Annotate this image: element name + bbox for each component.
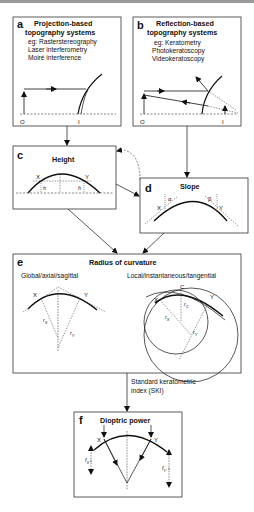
ski-label-line-2: index (SKI) [131,387,164,395]
panel-e-left-point-y: Y [84,292,88,298]
panel-a-example-3: Moiré interference [28,54,81,61]
panel-e-letter: e [17,256,23,268]
panel-b-example-2: Photokeratoscopy [152,47,205,55]
panel-b-title-2: topography systems [147,28,217,37]
panel-a-example-2: Laser interferometry [28,46,88,54]
panel-d-point-x: X [157,205,161,211]
panel-b-example-3: Videokeratoscopy [152,55,205,63]
panel-c: c Height X Y h h [13,146,116,209]
panel-e: e Radius of curvature Global/axial/sagit… [13,254,241,382]
panel-f-letter: f [79,414,83,426]
panel-c-letter: c [17,149,23,161]
panel-a-example-1: eg: Rasterstereography [28,38,98,46]
ski-label-line-1: Standard keratometric [131,378,197,385]
panel-d-point-y: Y [219,205,223,211]
panel-f-point-x: X [97,437,101,443]
panel-e-left-point-x: X [33,292,37,298]
panel-c-title: Height [52,155,75,164]
panel-c-h-left: h [43,185,46,191]
panel-b-example-1: eg: Keratometry [154,39,202,47]
panel-b-title-1: Reflection-based [156,19,214,28]
panel-f-point-y: Y [154,437,158,443]
arrow-c-to-d [116,184,139,196]
panel-e-right-point-y: Y [210,294,214,300]
panel-d: d Slope X α β Y [140,178,248,233]
panel-c-h-right: h [78,185,81,191]
panel-a-title-2: topography systems [25,28,95,37]
panel-d-title: Slope [180,182,200,191]
panel-d-letter: d [145,182,152,194]
arrow-c-to-e [68,209,117,253]
panel-f-title: Dioptric power [100,416,151,425]
panel-a-letter: a [17,18,24,30]
panel-b-letter: b [137,19,144,31]
panel-b: b Reflection-based topography systems eg… [133,17,241,126]
panel-d-alpha: α [168,196,172,202]
panel-d-beta: β [208,196,212,202]
panel-e-left-subtitle: Global/axial/sagittal [21,272,79,280]
panel-a: a Projection-based topography systems eg… [13,17,121,126]
panel-e-right-subtitle: Local/instantaneous/tangential [127,272,217,280]
panel-a-title-1: Projection-based [34,19,92,28]
panel-e-right-point-x: X [154,297,158,303]
panel-e-right-point-c: C [180,284,185,290]
panel-c-point-x: X [36,174,40,180]
curvature-diagram: a Projection-based topography systems eg… [0,0,254,512]
arrow-d-to-c [124,150,140,180]
panel-b-origin: O [140,119,145,125]
arrow-d-to-e [143,233,164,253]
panel-f: f Dioptric power X Y fX fY [74,412,182,497]
panel-c-point-y: Y [85,174,89,180]
panel-a-origin: O [20,119,25,125]
panel-e-title: Radius of curvature [89,258,157,267]
